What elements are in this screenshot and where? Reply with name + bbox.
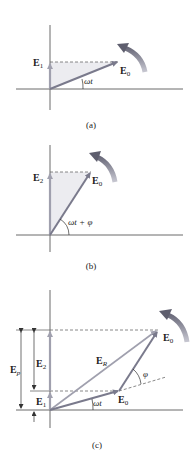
er-resultant-phasor [50, 331, 156, 410]
label-angle-wt-phi: ωt + φ [68, 217, 92, 227]
e0-first-phasor [50, 391, 118, 410]
label-e0: E0 [120, 65, 131, 78]
label-angle-wt: ωt [84, 76, 93, 86]
label-e0-top: E0 [163, 332, 174, 345]
rotation-arrow-icon [125, 48, 145, 72]
caption-a: (a) [86, 120, 96, 130]
label-angle-wt: ωt [93, 398, 102, 408]
e0-second-phasor [119, 332, 157, 391]
label-e0-mid: E0 [118, 394, 129, 407]
caption-b: (b) [86, 261, 97, 271]
label-e0: E0 [92, 175, 103, 188]
label-e2: E2 [33, 172, 44, 185]
phasor-diagram: E1 E0 ωt (a) E2 E0 ωt + φ (b) [0, 0, 193, 455]
rotation-arrow-icon [97, 157, 115, 182]
panel-c: Ep E2 E1 ER E0 E0 ωt φ (c) [10, 290, 187, 450]
angle-arc [82, 79, 83, 89]
panel-a: E1 E0 ωt (a) [16, 25, 183, 130]
angle-arc-phi [133, 369, 141, 384]
label-e1: E1 [36, 396, 47, 409]
label-e1: E1 [33, 57, 44, 70]
panel-b: E2 E0 ωt + φ (b) [16, 145, 183, 271]
label-ep: Ep [10, 364, 21, 377]
caption-c: (c) [92, 440, 102, 450]
label-e2: E2 [36, 358, 47, 371]
label-er: ER [96, 355, 108, 368]
label-angle-phi: φ [143, 369, 148, 379]
